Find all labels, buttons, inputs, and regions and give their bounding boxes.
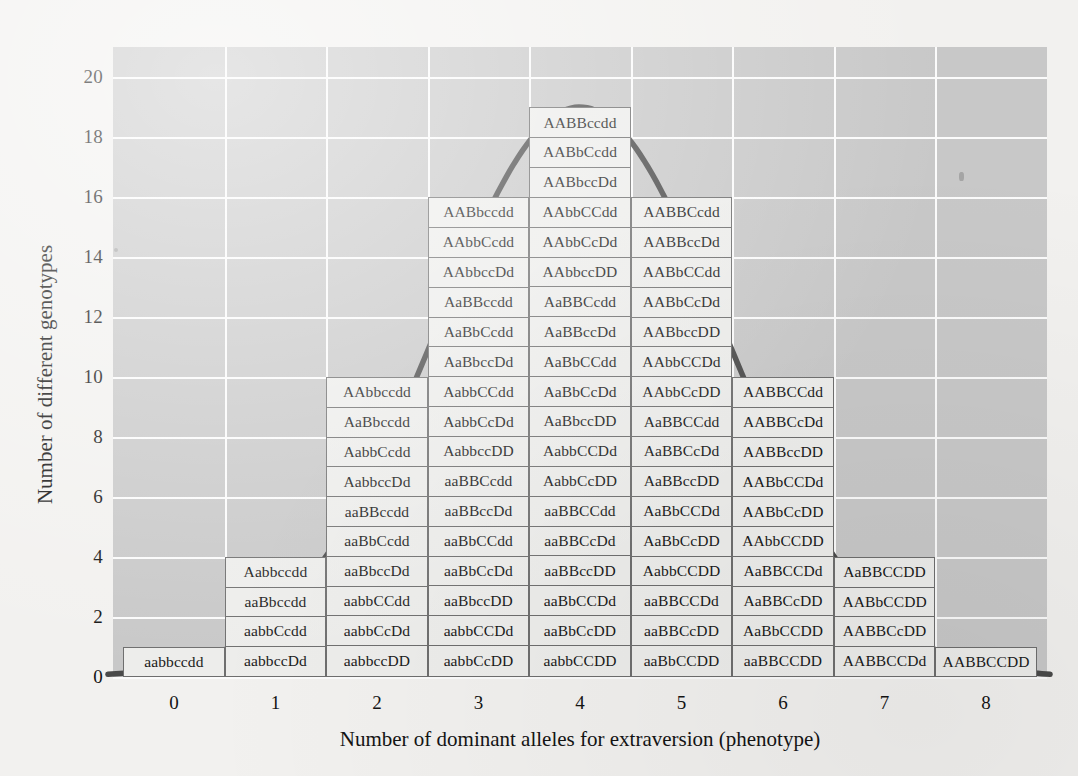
genotype-cell: AABBCcDD (835, 617, 935, 647)
genotype-cell: aabbccDD (327, 646, 427, 676)
genotype-cell: aabbccdd (124, 648, 224, 676)
genotype-cell: AAbbccDd (429, 258, 529, 288)
genotype-cell: AabbCCDD (632, 557, 732, 587)
scan-speck (114, 248, 118, 252)
genotype-cell: AaBbCcDd (530, 377, 630, 407)
genotype-cell: AABBccDD (733, 438, 833, 468)
genotype-cell: AabbCcDD (530, 467, 630, 497)
genotype-cell: AABBCCDD (936, 648, 1036, 676)
genotype-cell: AABBCcdd (632, 198, 732, 228)
genotype-cell: AAbbccdd (327, 378, 427, 408)
genotype-cell: AaBBccDd (530, 317, 630, 347)
genotype-cell: aabbCCDD (530, 646, 630, 676)
genotype-cell: aabbCcdd (226, 617, 326, 647)
genotype-cell: AABbCcDD (733, 497, 833, 527)
genotype-cell: AabbccDd (327, 467, 427, 497)
genotype-cell: AaBbCCdd (530, 347, 630, 377)
genotype-cell: AABBCCdd (733, 378, 833, 408)
genotype-cell: aaBbccDd (327, 557, 427, 587)
genotype-cell: AABBccdd (530, 108, 630, 138)
genotype-cell: AAbbCcdd (429, 228, 529, 258)
scan-speck (959, 172, 964, 181)
genotype-cell: AabbccDD (429, 437, 529, 467)
genotype-cell: aaBBCcDD (632, 616, 732, 646)
genotype-cell: aaBBccDD (530, 556, 630, 586)
genotype-cell: aaBBccDd (429, 497, 529, 527)
genotype-column-1: aabbccDdaabbCcddaaBbccddAabbccdd (225, 557, 327, 677)
genotype-cell: AAbbCcDd (530, 228, 630, 258)
figure-canvas: 02468101214161820 Number of different ge… (0, 0, 1078, 776)
genotype-cell: Aabbccdd (226, 558, 326, 588)
genotype-cell: AABbCCDd (733, 467, 833, 497)
genotype-cell: AaBBCCDD (835, 558, 935, 588)
genotype-cell: AABbccDD (632, 318, 732, 348)
genotype-column-3: aabbCcDDaabbCCDdaaBbccDDaaBbCcDdaaBbCCdd… (428, 197, 530, 677)
genotype-cell: AAbbCcDD (632, 377, 732, 407)
genotype-cell: aaBBCCdd (530, 497, 630, 527)
genotype-cell: AABbCCdd (632, 258, 732, 288)
genotype-cell: AAbbCCDd (632, 347, 732, 377)
genotype-cell: aaBBCcdd (429, 467, 529, 497)
genotype-cell: AaBbccDD (530, 407, 630, 437)
genotype-cell: AAbbCCDD (733, 527, 833, 557)
genotype-cell: aaBBccdd (327, 497, 427, 527)
genotype-cell: AaBBCcDd (632, 437, 732, 467)
genotype-cell: AabbCcDd (429, 407, 529, 437)
genotype-cell: AABbCcDd (632, 288, 732, 318)
genotype-cell: AaBbCCDd (632, 497, 732, 527)
genotype-cell: aabbCCdd (327, 587, 427, 617)
genotype-cell: AAbbCCdd (530, 198, 630, 228)
genotype-cell: AAbbccDD (530, 258, 630, 288)
genotype-column-6: aaBBCCDDAaBbCCDDAaBBCcDDAaBBCCDdAAbbCCDD… (732, 377, 834, 677)
genotype-cell: aaBbccdd (226, 588, 326, 618)
genotype-cell: AABbCCDD (835, 588, 935, 618)
genotype-column-0: aabbccdd (123, 647, 225, 677)
genotype-cell: AabbCCDd (530, 437, 630, 467)
genotype-cell: AABBccDd (632, 228, 732, 258)
genotype-cell: aabbccDd (226, 647, 326, 676)
genotype-cell: aaBbCCDD (632, 646, 732, 676)
genotype-cell: aabbCcDd (327, 616, 427, 646)
genotype-column-8: AABBCCDD (935, 647, 1037, 677)
genotype-cell: AaBBCCdd (632, 407, 732, 437)
genotype-cell: AaBbCCDD (733, 616, 833, 646)
genotype-cell: AabbCcdd (327, 438, 427, 468)
genotype-cell: aabbCcDD (429, 646, 529, 676)
genotype-cell: aaBBCCDD (733, 646, 833, 676)
genotype-cell: aaBbCCDd (530, 586, 630, 616)
genotype-cell: AABbCcdd (530, 138, 630, 168)
genotype-cell: AaBBccdd (429, 288, 529, 318)
genotype-cell: aaBbCCdd (429, 527, 529, 557)
genotype-cell: aabbCCDd (429, 616, 529, 646)
genotype-cell: AABBCcDd (733, 408, 833, 438)
genotype-cell: AaBBccDD (632, 467, 732, 497)
genotype-cell: AaBbCcdd (429, 318, 529, 348)
genotype-cell: aaBbCcDd (429, 557, 529, 587)
genotype-cell: AaBBCcdd (530, 287, 630, 317)
genotype-cell: AaBbccdd (327, 408, 427, 438)
genotype-cell: aaBBCcDd (530, 527, 630, 557)
genotype-cell: aaBbccDD (429, 586, 529, 616)
genotype-cell: AaBBCcDD (733, 587, 833, 617)
genotype-columns: aabbccddaabbccDdaabbCcddaaBbccddAabbccdd… (0, 0, 1078, 776)
genotype-cell: AABBCCDd (835, 647, 935, 676)
genotype-cell: AaBbccDd (429, 347, 529, 377)
genotype-column-7: AABBCCDdAABBCcDDAABbCCDDAaBBCCDD (834, 557, 936, 677)
genotype-column-2: aabbccDDaabbCcDdaabbCCddaaBbccDdaaBbCcdd… (326, 377, 428, 677)
genotype-cell: AABbccdd (429, 198, 529, 228)
genotype-column-5: aaBbCCDDaaBBCcDDaaBBCCDdAabbCCDDAaBbCcDD… (631, 197, 733, 677)
genotype-cell: aaBBCCDd (632, 586, 732, 616)
genotype-cell: AaBbCcDD (632, 527, 732, 557)
genotype-column-4: aabbCCDDaaBbCcDDaaBbCCDdaaBBccDDaaBBCcDd… (529, 107, 631, 677)
genotype-cell: AABbccDd (530, 168, 630, 198)
genotype-cell: AabbCCdd (429, 377, 529, 407)
genotype-cell: AaBBCCDd (733, 557, 833, 587)
genotype-cell: aaBbCcdd (327, 527, 427, 557)
genotype-cell: aaBbCcDD (530, 616, 630, 646)
